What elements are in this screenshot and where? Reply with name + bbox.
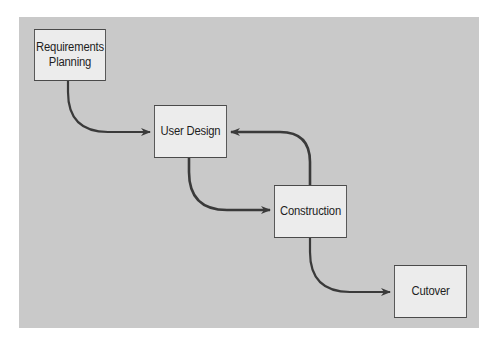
diagram-canvas: Requirements Planning User Design Constr… <box>0 0 497 343</box>
node-label: Cutover <box>411 284 449 299</box>
node-requirements-planning: Requirements Planning <box>34 29 106 81</box>
node-label: User Design <box>161 124 221 139</box>
node-label: Construction <box>280 204 341 219</box>
node-user-design: User Design <box>154 105 227 158</box>
node-construction: Construction <box>274 185 347 238</box>
node-label: Requirements Planning <box>36 40 104 70</box>
node-cutover: Cutover <box>394 265 467 318</box>
